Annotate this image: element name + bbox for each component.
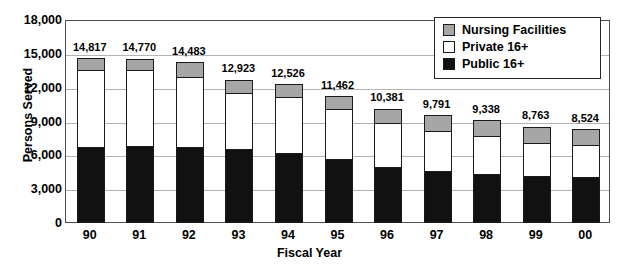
bar-94[interactable]: [275, 84, 303, 222]
x-axis-title: Fiscal Year: [0, 246, 619, 260]
bar-92[interactable]: [176, 62, 204, 222]
y-axis-tick-label: 0: [6, 216, 62, 230]
x-axis-tick-label: 98: [466, 228, 506, 242]
bar-segment-private: [77, 70, 105, 149]
bar-segment-private: [176, 77, 204, 149]
bar-segment-public: [225, 149, 253, 223]
bar-value-label: 9,791: [409, 98, 465, 110]
bar-value-label: 14,770: [111, 41, 167, 53]
bar-segment-public: [275, 153, 303, 223]
bar-segment-public: [126, 146, 154, 223]
x-axis-tick-label: 99: [516, 228, 556, 242]
bar-segment-nursing: [176, 62, 204, 78]
legend-swatch-private: [443, 41, 455, 53]
bar-97[interactable]: [424, 115, 452, 222]
bar-00[interactable]: [572, 129, 600, 222]
bar-value-label: 10,381: [359, 91, 415, 103]
bar-segment-public: [176, 147, 204, 223]
bar-segment-nursing: [572, 129, 600, 146]
bar-segment-public: [572, 177, 600, 223]
bar-value-label: 12,526: [260, 67, 316, 79]
legend-item[interactable]: Nursing Facilities: [443, 22, 594, 38]
chart-legend: Nursing FacilitiesPrivate 16+Public 16+: [434, 17, 601, 79]
stacked-bar-chart: 03,0006,0009,00012,00015,00018,000 Perso…: [0, 0, 619, 265]
x-axis-tick-label: 90: [70, 228, 110, 242]
bar-segment-nursing: [225, 80, 253, 95]
bar-segment-nursing: [523, 127, 551, 144]
legend-label: Nursing Facilities: [462, 23, 566, 37]
bar-segment-nursing: [374, 109, 402, 125]
bar-segment-public: [473, 174, 501, 223]
x-axis-tick-label: 91: [119, 228, 159, 242]
bar-96[interactable]: [374, 109, 402, 222]
bar-segment-private: [424, 131, 452, 172]
bar-value-label: 9,338: [458, 103, 514, 115]
legend-swatch-nursing: [443, 24, 455, 36]
legend-label: Private 16+: [462, 40, 528, 54]
bar-value-label: 8,524: [557, 112, 613, 124]
bar-segment-public: [77, 147, 105, 223]
x-axis-tick-label: 00: [565, 228, 605, 242]
bar-segment-nursing: [473, 120, 501, 137]
bar-90[interactable]: [77, 58, 105, 222]
legend-swatch-public: [443, 58, 455, 70]
bar-segment-nursing: [424, 115, 452, 132]
bar-segment-public: [374, 167, 402, 223]
y-axis-title: Persons Served: [21, 25, 35, 205]
x-axis-tick-label: 95: [318, 228, 358, 242]
bar-segment-private: [523, 143, 551, 178]
bar-99[interactable]: [523, 127, 551, 222]
legend-item[interactable]: Public 16+: [443, 56, 594, 72]
bar-value-label: 14,817: [62, 41, 118, 53]
bar-segment-private: [473, 136, 501, 175]
bar-value-label: 11,462: [310, 79, 366, 91]
bar-value-label: 8,763: [508, 109, 564, 121]
bar-98[interactable]: [473, 120, 501, 222]
bar-segment-public: [325, 159, 353, 223]
x-axis-tick-label: 93: [218, 228, 258, 242]
bar-segment-public: [523, 176, 551, 223]
bar-value-label: 12,923: [210, 62, 266, 74]
legend-label: Public 16+: [462, 57, 524, 71]
x-axis-tick-label: 96: [367, 228, 407, 242]
x-axis-tick-label: 97: [417, 228, 457, 242]
bar-segment-public: [424, 171, 452, 223]
bar-segment-private: [374, 123, 402, 168]
bar-93[interactable]: [225, 80, 253, 222]
legend-item[interactable]: Private 16+: [443, 39, 594, 55]
bar-segment-private: [225, 93, 253, 150]
bar-value-label: 14,483: [161, 45, 217, 57]
bar-segment-private: [126, 70, 154, 147]
bar-segment-private: [275, 97, 303, 154]
x-axis-tick-label: 94: [268, 228, 308, 242]
bar-segment-private: [572, 145, 600, 178]
bar-91[interactable]: [126, 59, 154, 222]
bar-segment-private: [325, 109, 353, 160]
x-axis-tick-label: 92: [169, 228, 209, 242]
bar-95[interactable]: [325, 96, 353, 222]
